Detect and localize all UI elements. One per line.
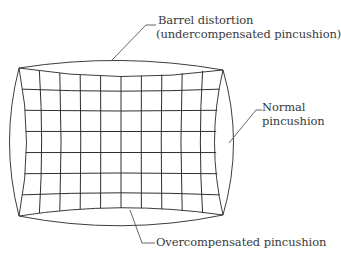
grid-vertical-line (161, 75, 162, 210)
barrel-right-edge (223, 70, 234, 215)
barrel-label-line1: Barrel distortion (158, 14, 253, 27)
barrel-left-edge (10, 68, 20, 216)
pincushion-bottom-edge (19, 208, 223, 216)
over-label: Overcompensated pincushion (156, 236, 326, 249)
pincushion-right-edge (215, 70, 224, 215)
grid-vertical-line (39, 71, 41, 213)
normal-label-line1: Normal (262, 101, 305, 114)
normal-label-line2: pincushion (262, 115, 325, 128)
grid-vertical-line (181, 73, 182, 211)
grid-vertical-line (200, 71, 202, 213)
barrel-top-edge (19, 60, 223, 70)
barrel-leader-line (112, 25, 156, 60)
barrel-label-line2: (undercompensated pincushion) (156, 28, 341, 41)
barrel-bottom-edge (19, 215, 223, 226)
pincushion-top-edge (19, 68, 223, 77)
grid-vertical-line (80, 75, 81, 210)
raster-grid (22, 71, 219, 213)
pincushion-left-edge (19, 68, 27, 216)
grid-vertical-line (60, 73, 61, 211)
over-leader-line (130, 210, 155, 243)
